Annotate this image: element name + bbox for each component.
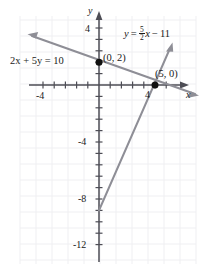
coordinate-plane-figure: y x -4 4 4 -4 -8 -12 (0, 2) (5, 0) 2x + …	[0, 0, 203, 278]
equation-variable: x	[145, 28, 150, 39]
graph-canvas	[0, 0, 203, 278]
equation-minus: −	[152, 28, 158, 39]
equation-label-line1: 2x + 5y = 10	[10, 56, 64, 67]
point-5-0	[152, 82, 159, 89]
x-tick-label-4: 4	[145, 90, 150, 100]
equation-label-line2: y=52x−11	[124, 26, 170, 43]
y-tick-label--4: -4	[78, 137, 86, 147]
fraction-five-halves: 52	[139, 26, 145, 43]
equation-constant: 11	[160, 28, 170, 39]
x-axis-arrowhead	[180, 82, 189, 89]
y-tick-label--8: -8	[78, 194, 86, 204]
equation-lhs: y	[124, 28, 129, 39]
y-tick-label-4: 4	[85, 24, 90, 34]
x-tick-label--4: -4	[36, 91, 44, 101]
point-label-0-2: (0, 2)	[103, 53, 126, 64]
y-axis-arrowhead	[96, 11, 103, 20]
axis-label-y: y	[88, 6, 92, 16]
line2-arrowhead-end	[166, 43, 173, 52]
point-0-2	[96, 59, 103, 66]
fraction-denominator: 2	[139, 33, 145, 42]
y-tick-label--12: -12	[73, 240, 86, 250]
point-label-5-0: (5, 0)	[155, 69, 178, 80]
equation-equals: =	[131, 28, 137, 39]
fraction-numerator: 5	[139, 26, 145, 34]
axis-label-x: x	[186, 90, 190, 100]
